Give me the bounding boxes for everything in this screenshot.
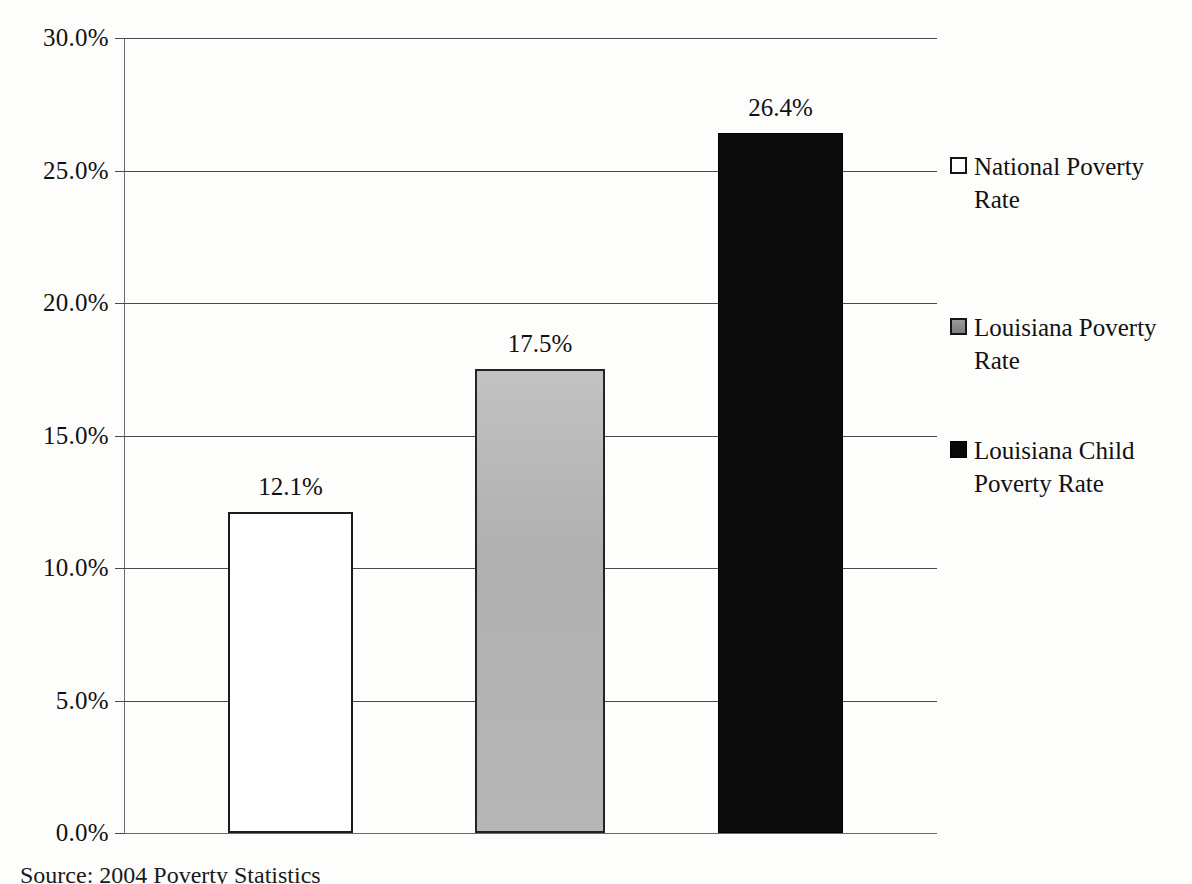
y-tick-label: 5.0%: [56, 688, 109, 713]
gridline-00: [124, 833, 937, 834]
y-tick-label: 15.0%: [43, 423, 109, 448]
y-tick-mark: [115, 568, 124, 569]
bar-value-label: 26.4%: [718, 95, 843, 120]
bar-1[interactable]: [475, 369, 605, 833]
poverty-rate-bar-chart: 30.0%25.0%20.0%15.0%10.0%5.0%0.0% 12.1%1…: [0, 0, 1192, 884]
y-tick-mark: [115, 701, 124, 702]
bar-2[interactable]: [718, 133, 843, 833]
legend-entry-2[interactable]: Louisiana Child Poverty Rate: [950, 434, 1180, 500]
y-tick-label: 30.0%: [43, 25, 109, 50]
plot-area: [124, 38, 937, 833]
y-tick-mark: [115, 436, 124, 437]
y-tick-mark: [115, 38, 124, 39]
legend-entry-1[interactable]: Louisiana Poverty Rate: [950, 311, 1180, 377]
bar-0[interactable]: [228, 512, 353, 833]
bar-value-label: 17.5%: [475, 331, 605, 356]
legend-entry-0[interactable]: National Poverty Rate: [950, 150, 1180, 216]
legend-label: Louisiana Child Poverty Rate: [974, 434, 1180, 500]
y-tick-label: 20.0%: [43, 290, 109, 315]
y-tick-label: 25.0%: [43, 158, 109, 183]
black-square-swatch-icon: [950, 441, 967, 458]
y-tick-mark: [115, 171, 124, 172]
y-tick-label: 0.0%: [56, 820, 109, 845]
bar-value-label: 12.1%: [228, 474, 353, 499]
source-caption: Source: 2004 Poverty Statistics: [20, 861, 321, 884]
y-tick-mark: [115, 833, 124, 834]
legend-label: National Poverty Rate: [974, 150, 1180, 216]
y-tick-mark: [115, 303, 124, 304]
gray-square-swatch-icon: [950, 318, 967, 335]
y-tick-label: 10.0%: [43, 555, 109, 580]
gridline-300: [124, 38, 937, 39]
white-square-swatch-icon: [950, 157, 967, 174]
legend-label: Louisiana Poverty Rate: [974, 311, 1180, 377]
